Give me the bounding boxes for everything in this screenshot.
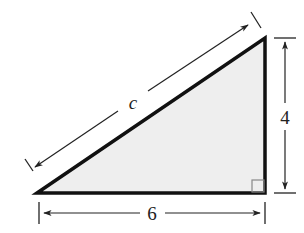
horizontal-leg-label: 6 xyxy=(147,203,157,224)
hypotenuse-tick-start xyxy=(25,159,33,171)
right-triangle-diagram: c 4 6 xyxy=(0,0,304,233)
vertical-leg-label: 4 xyxy=(280,107,290,128)
triangle xyxy=(37,38,265,193)
hypotenuse-label: c xyxy=(129,92,138,113)
hypotenuse-tick-end xyxy=(251,12,261,28)
